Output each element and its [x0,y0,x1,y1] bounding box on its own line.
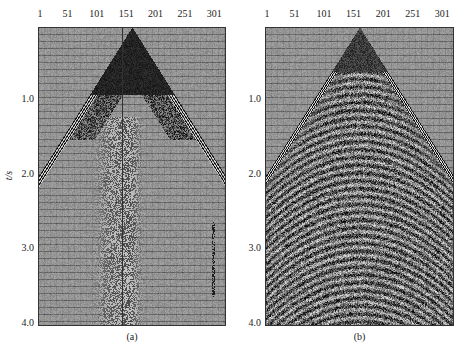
x-tick-label: 151 [346,8,361,19]
x-tick-label: 101 [317,8,332,19]
y-tick-label: 2.0 [233,167,261,178]
x-tick-label: 251 [405,8,420,19]
x-tick-label: 251 [177,8,192,19]
x-tick-label: 51 [290,8,300,19]
x-tick-label: 1 [265,8,270,19]
seismic-plot-a [38,27,226,326]
x-tick-label: 201 [148,8,163,19]
x-tick-label: 101 [89,8,104,19]
x-tick-label: 301 [207,8,222,19]
caption-b: (b) [354,331,366,342]
figure: 151101151201251301 1.02.03.04.0 t/s (a) … [0,0,470,361]
y-axis-label: t/s [3,171,14,180]
y-tick-label: 3.0 [6,242,34,253]
x-tick-label: 51 [62,8,72,19]
y-tick-label: 4.0 [6,317,34,328]
y-tick-label: 1.0 [6,92,34,103]
x-tick-label: 151 [119,8,134,19]
seismic-plot-b [265,27,454,326]
x-tick-label: 1 [38,8,43,19]
y-tick-label: 4.0 [233,317,261,328]
y-tick-label: 1.0 [233,92,261,103]
x-tick-label: 301 [435,8,450,19]
caption-a: (a) [126,331,137,342]
y-tick-label: 3.0 [233,242,261,253]
x-tick-label: 201 [376,8,391,19]
